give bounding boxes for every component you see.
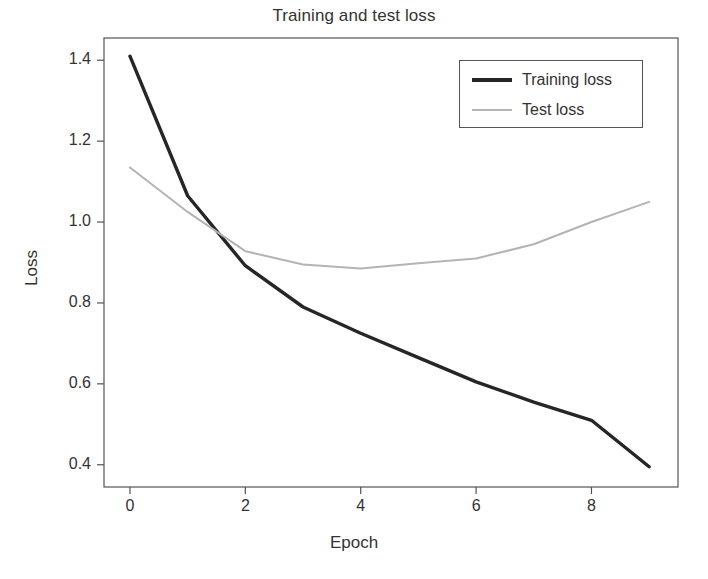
legend-item-training-loss: Training loss: [460, 66, 644, 94]
y-tick-label: 1.0: [45, 212, 91, 230]
x-tick-label: 2: [230, 497, 260, 515]
legend-label-training-loss: Training loss: [522, 71, 612, 89]
legend: Training loss Test loss: [459, 60, 643, 128]
x-tick-label: 0: [115, 497, 145, 515]
x-tick-label: 8: [576, 497, 606, 515]
y-tick-label: 0.6: [45, 374, 91, 392]
legend-swatch-training-loss: [472, 78, 512, 82]
x-tick-label: 6: [461, 497, 491, 515]
legend-swatch-test-loss: [472, 109, 512, 111]
y-tick-label: 0.8: [45, 293, 91, 311]
x-tick-label: 4: [346, 497, 376, 515]
legend-item-test-loss: Test loss: [460, 96, 644, 124]
legend-label-test-loss: Test loss: [522, 101, 584, 119]
y-tick-label: 1.4: [45, 50, 91, 68]
y-tick-label: 1.2: [45, 131, 91, 149]
y-tick-label: 0.4: [45, 455, 91, 473]
figure-canvas: Training and test loss Loss Epoch 0.40.6…: [0, 0, 708, 579]
